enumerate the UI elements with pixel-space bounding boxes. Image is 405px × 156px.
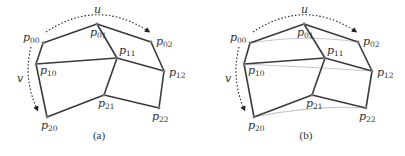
mesh-edge-p11-p12 <box>117 58 164 71</box>
mesh-edge-p00-p01 <box>43 24 97 43</box>
panel-b: p00p01p02p10p11p12p20p21p22uv(b) <box>225 3 394 142</box>
v-label: v <box>17 72 24 85</box>
v-label: v <box>225 72 232 85</box>
mesh-edge-p10-p11 <box>244 58 325 64</box>
control-point-p22 <box>158 107 161 110</box>
label-p02: p02 <box>363 35 380 49</box>
label-p00: p00 <box>230 31 247 45</box>
control-point-p12 <box>163 70 166 73</box>
label-p11: p11 <box>327 44 344 58</box>
control-point-p00 <box>42 42 45 45</box>
label-p11: p11 <box>119 44 136 58</box>
label-p12: p12 <box>377 66 394 80</box>
control-point-p20 <box>46 116 49 119</box>
label-p22: p22 <box>359 110 376 124</box>
control-point-p11 <box>116 57 119 60</box>
control-mesh-figure: p00p01p02p10p11p12p20p21p22uv(a) p00p01p… <box>0 0 405 156</box>
label-p01: p01 <box>297 26 314 40</box>
control-point-p01 <box>96 23 99 26</box>
control-point-p12 <box>371 70 374 73</box>
mesh-edge-p11-p21 <box>104 58 117 95</box>
u-label: u <box>94 3 101 16</box>
mesh-edge-p00-p10 <box>36 43 43 64</box>
v-direction-arrow <box>236 47 244 109</box>
control-point-p01 <box>303 23 306 26</box>
mesh-edge-p12-p22 <box>366 71 372 108</box>
control-point-p00 <box>249 42 252 45</box>
label-p12: p12 <box>169 66 186 80</box>
panel-caption: (b) <box>300 129 313 142</box>
control-point-p22 <box>365 107 368 110</box>
label-p21: p21 <box>306 97 323 111</box>
u-label: u <box>301 3 308 16</box>
label-p10: p10 <box>40 64 57 78</box>
panel-a: p00p01p02p10p11p12p20p21p22uv(a) <box>17 3 186 142</box>
mesh-edge-p10-p11 <box>36 58 117 64</box>
label-p22: p22 <box>152 110 169 124</box>
mesh-edge-p20-p21 <box>47 95 104 117</box>
panel-caption: (a) <box>93 129 106 142</box>
label-p21: p21 <box>98 97 115 111</box>
v-direction-arrow <box>28 47 37 109</box>
mesh-edge-p01-p11 <box>304 24 325 58</box>
label-p10: p10 <box>248 64 265 78</box>
mesh-edge-p00-p10 <box>244 43 250 64</box>
control-point-p21 <box>311 94 314 97</box>
label-p20: p20 <box>41 119 58 133</box>
control-point-p21 <box>103 94 106 97</box>
mesh-edge-p12-p22 <box>159 71 164 108</box>
control-point-p10 <box>35 63 38 66</box>
label-p20: p20 <box>248 119 265 133</box>
control-point-p02 <box>357 41 360 44</box>
label-p02: p02 <box>156 35 173 49</box>
control-point-p20 <box>253 116 256 119</box>
label-p01: p01 <box>90 26 107 40</box>
control-point-p02 <box>150 41 153 44</box>
mesh-edge-p20-p21 <box>254 95 312 117</box>
label-p00: p00 <box>23 31 40 45</box>
control-point-p11 <box>324 57 327 60</box>
mesh-edge-p11-p21 <box>312 58 325 95</box>
control-point-p10 <box>243 63 246 66</box>
